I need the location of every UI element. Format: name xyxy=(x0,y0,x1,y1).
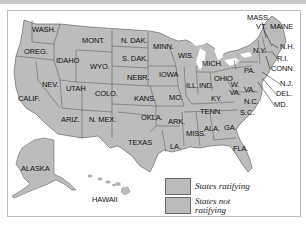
state-label-miss: MISS. xyxy=(186,130,206,138)
state-label-sc: S.C. xyxy=(240,109,254,117)
state-label-nev: NEV. xyxy=(42,81,58,89)
state-label-mich: MICH. xyxy=(202,60,223,68)
state-label-utah: UTAH xyxy=(66,85,85,93)
state-label-alaska: ALASKA xyxy=(21,165,50,173)
state-label-ny: N.Y. xyxy=(253,47,266,55)
state-label-va: VA. xyxy=(244,86,255,94)
state-label-fla: FLA. xyxy=(233,145,248,153)
state-label-wva: W. VA. xyxy=(228,81,242,96)
state-label-pa: PA. xyxy=(244,67,255,75)
state-label-colo: COLO. xyxy=(95,90,118,98)
state-label-conn: CONN. xyxy=(271,65,295,73)
legend-label-not-ratifying-line2: ratifying xyxy=(195,206,226,215)
state-label-wis: WIS. xyxy=(178,52,194,60)
state-label-sdak: S. DAK. xyxy=(122,55,148,63)
state-label-vt: VT. xyxy=(256,23,267,31)
state-label-ark: ARK. xyxy=(168,118,185,126)
state-label-nc: N.C. xyxy=(244,98,259,106)
state-label-ala: ALA. xyxy=(204,125,220,133)
state-label-calif: CALIF. xyxy=(18,95,40,103)
state-label-ill: ILL. xyxy=(186,82,198,90)
legend-swatch-not-ratifying xyxy=(165,197,191,214)
state-label-iowa: IOWA xyxy=(159,71,178,79)
state-label-ndak: N. DAK. xyxy=(121,37,147,45)
state-label-kans: KANS. xyxy=(134,95,156,103)
state-label-hawaii: HAWAII xyxy=(92,196,118,204)
state-label-ri: R.I. xyxy=(277,55,288,63)
state-label-maine: MAINE xyxy=(270,23,293,31)
state-label-okla: OKLA. xyxy=(141,114,163,122)
state-label-md: MD. xyxy=(274,101,287,109)
state-label-wyo: WYO. xyxy=(90,63,110,71)
state-label-ky: KY. xyxy=(211,95,222,103)
state-label-ariz: ARIZ. xyxy=(61,116,80,124)
state-label-ga: GA. xyxy=(224,124,237,132)
state-label-nebr: NEBR. xyxy=(127,74,149,82)
state-label-texas: TEXAS xyxy=(128,139,152,147)
state-label-nmex: N. MEX. xyxy=(89,116,116,124)
state-label-nj: N.J. xyxy=(280,80,293,88)
state-label-nh: N.H. xyxy=(280,43,295,51)
state-label-tenn: TENN. xyxy=(200,108,222,116)
state-label-mont: MONT. xyxy=(82,37,105,45)
state-label-wash: WASH. xyxy=(32,26,56,34)
state-label-mass: MASS. xyxy=(247,14,270,22)
state-label-del: DEL. xyxy=(276,90,292,98)
state-label-oreg: OREG. xyxy=(24,48,48,56)
state-label-minn: MINN. xyxy=(153,43,174,51)
state-label-idaho: IDAHO xyxy=(56,57,79,65)
state-label-ind: IND. xyxy=(199,82,214,90)
state-label-mo: MO. xyxy=(169,94,183,102)
state-label-la: LA. xyxy=(170,143,181,151)
legend-swatch-ratifying xyxy=(165,178,191,195)
legend-label-ratifying: States ratifying xyxy=(195,182,250,191)
